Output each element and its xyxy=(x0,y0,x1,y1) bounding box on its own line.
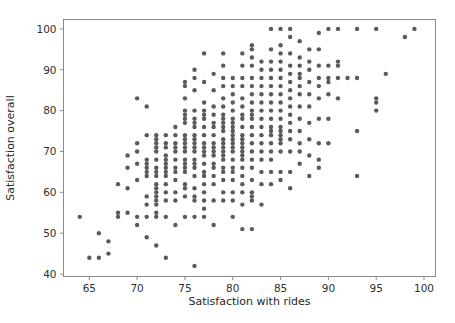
data-point xyxy=(221,51,225,55)
data-point xyxy=(202,100,206,104)
data-point xyxy=(192,264,196,268)
data-point xyxy=(173,170,177,174)
data-point xyxy=(269,141,273,145)
data-point xyxy=(192,121,196,125)
data-point xyxy=(192,141,196,145)
data-point xyxy=(211,141,215,145)
data-point xyxy=(269,47,273,51)
data-point xyxy=(164,145,168,149)
data-point xyxy=(317,47,321,51)
data-point xyxy=(202,174,206,178)
data-point xyxy=(278,137,282,141)
data-point xyxy=(211,125,215,129)
data-point xyxy=(211,104,215,108)
data-point xyxy=(192,198,196,202)
data-point xyxy=(259,68,263,72)
data-point xyxy=(192,68,196,72)
data-point xyxy=(240,84,244,88)
data-point xyxy=(250,141,254,145)
data-point xyxy=(116,211,120,215)
data-point xyxy=(154,202,158,206)
data-point xyxy=(154,166,158,170)
data-point xyxy=(231,157,235,161)
data-point xyxy=(250,125,254,129)
data-point xyxy=(240,174,244,178)
data-point xyxy=(317,31,321,35)
data-point xyxy=(221,84,225,88)
data-point xyxy=(240,157,244,161)
data-point xyxy=(240,149,244,153)
data-point xyxy=(250,117,254,121)
data-point xyxy=(250,133,254,137)
data-point xyxy=(326,63,330,67)
data-point xyxy=(221,149,225,153)
data-point xyxy=(211,223,215,227)
data-point xyxy=(164,190,168,194)
data-point xyxy=(183,186,187,190)
data-point xyxy=(202,182,206,186)
data-point xyxy=(202,162,206,166)
x-axis-title: Satisfaction with rides xyxy=(189,295,311,308)
data-point xyxy=(145,174,149,178)
data-point xyxy=(326,117,330,121)
data-point xyxy=(307,47,311,51)
data-point xyxy=(288,63,292,67)
data-point xyxy=(145,202,149,206)
data-point xyxy=(173,133,177,137)
data-point xyxy=(116,215,120,219)
data-point xyxy=(288,104,292,108)
data-point xyxy=(250,63,254,67)
data-point xyxy=(231,76,235,80)
data-point xyxy=(278,129,282,133)
data-point xyxy=(250,178,254,182)
data-point xyxy=(288,35,292,39)
data-point xyxy=(183,117,187,121)
data-point xyxy=(97,231,101,235)
data-point xyxy=(183,80,187,84)
data-point xyxy=(231,141,235,145)
data-point xyxy=(336,96,340,100)
data-point xyxy=(250,194,254,198)
data-point xyxy=(145,157,149,161)
data-point xyxy=(135,162,139,166)
data-point xyxy=(211,145,215,149)
data-point xyxy=(250,76,254,80)
data-point xyxy=(307,68,311,72)
data-point xyxy=(269,27,273,31)
data-point xyxy=(192,76,196,80)
data-point xyxy=(288,129,292,133)
data-point xyxy=(221,113,225,117)
data-point xyxy=(154,211,158,215)
data-point xyxy=(288,80,292,84)
data-point xyxy=(192,215,196,219)
data-point xyxy=(250,92,254,96)
data-point xyxy=(278,84,282,88)
data-point xyxy=(288,27,292,31)
data-point xyxy=(250,157,254,161)
data-point xyxy=(211,133,215,137)
data-point xyxy=(240,113,244,117)
data-point xyxy=(154,194,158,198)
data-point xyxy=(278,59,282,63)
data-point xyxy=(326,27,330,31)
data-point xyxy=(374,100,378,104)
data-point xyxy=(192,162,196,166)
y-tick-label: 70 xyxy=(43,145,56,157)
data-point xyxy=(240,153,244,157)
data-point xyxy=(250,108,254,112)
data-point xyxy=(250,198,254,202)
data-point xyxy=(97,256,101,260)
data-point xyxy=(154,243,158,247)
data-point xyxy=(403,35,407,39)
data-point xyxy=(145,104,149,108)
data-point xyxy=(154,137,158,141)
data-point xyxy=(202,125,206,129)
data-point xyxy=(278,133,282,137)
data-point xyxy=(240,202,244,206)
data-point xyxy=(221,190,225,194)
data-point xyxy=(183,133,187,137)
data-point xyxy=(192,166,196,170)
data-point xyxy=(145,162,149,166)
data-point xyxy=(250,190,254,194)
data-point xyxy=(145,133,149,137)
